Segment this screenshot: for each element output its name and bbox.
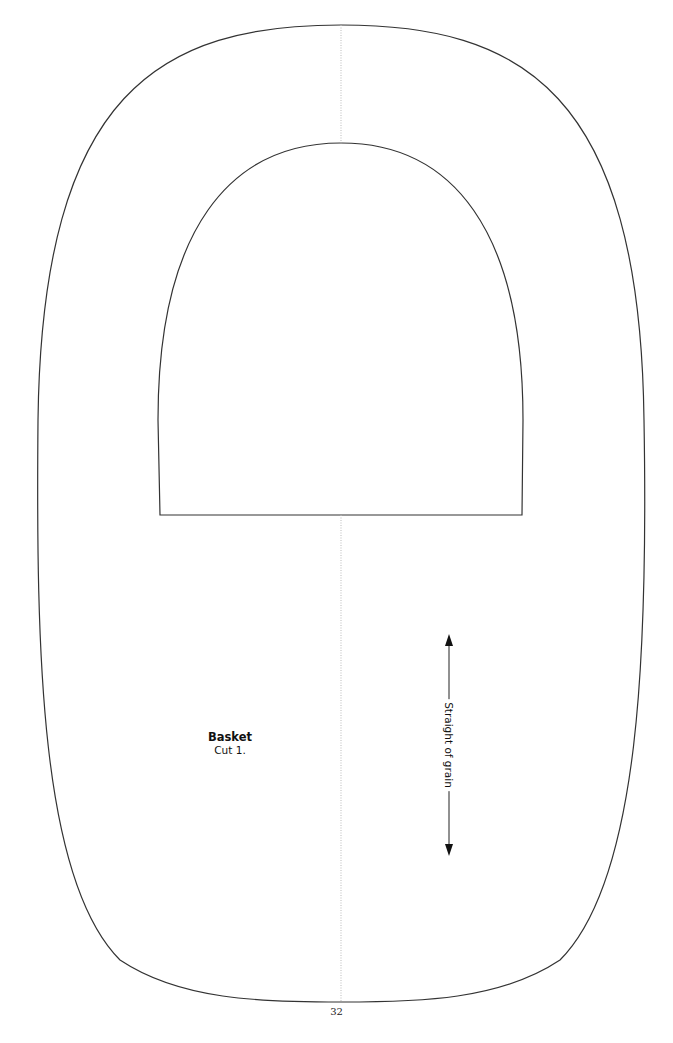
inner-cutout-outline	[158, 143, 523, 515]
arrow-down-icon	[445, 844, 453, 856]
page-number: 32	[0, 1006, 673, 1017]
piece-label: Basket Cut 1.	[190, 730, 270, 757]
piece-name: Basket	[190, 730, 270, 744]
arrow-up-icon	[445, 634, 453, 646]
pattern-drawing	[0, 0, 673, 1043]
grain-label: Straight of grain	[443, 699, 455, 791]
cut-instruction: Cut 1.	[190, 744, 270, 757]
